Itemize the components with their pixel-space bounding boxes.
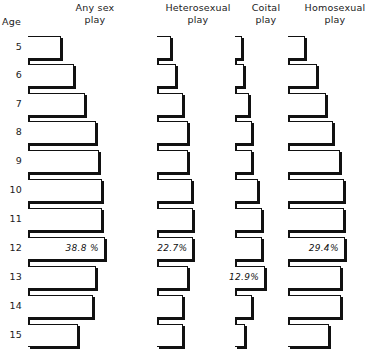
age-tick-label: 12	[4, 242, 22, 253]
bar[interactable]	[28, 295, 93, 318]
bar[interactable]	[235, 237, 262, 260]
age-tick-label: 9	[4, 155, 22, 166]
age-tick-label: 15	[4, 329, 22, 340]
bar[interactable]	[235, 93, 249, 116]
bar[interactable]	[235, 179, 258, 202]
bar[interactable]	[288, 64, 317, 87]
age-tick-label: 7	[4, 98, 22, 109]
chart-canvas: Any sex play Heterosexual play Coital pl…	[0, 0, 379, 362]
bar[interactable]	[288, 93, 326, 116]
age-tick-label: 11	[4, 213, 22, 224]
age-tick-label: 13	[4, 271, 22, 282]
bar[interactable]	[157, 36, 171, 59]
bar[interactable]	[157, 179, 192, 202]
bar[interactable]	[288, 179, 344, 202]
bar[interactable]	[157, 121, 188, 144]
age-tick-label: 14	[4, 300, 22, 311]
bar[interactable]	[235, 36, 242, 59]
column-title-coital-play: Coital play	[240, 2, 292, 25]
bar[interactable]	[288, 36, 305, 59]
bar[interactable]	[28, 208, 102, 231]
age-tick-label: 8	[4, 126, 22, 137]
bar-value-label: 38.8 %	[59, 243, 99, 253]
bar[interactable]	[28, 150, 99, 173]
bar[interactable]	[235, 295, 252, 318]
bar[interactable]	[235, 208, 262, 231]
bar[interactable]	[157, 266, 188, 289]
bar[interactable]	[157, 324, 183, 347]
bar-value-label: 29.4%	[299, 243, 339, 253]
age-axis-caption: Age	[2, 16, 21, 27]
bar[interactable]	[288, 150, 340, 173]
bar[interactable]	[157, 208, 193, 231]
bar[interactable]	[288, 121, 333, 144]
column-title-homosexual-play: Homosexual play	[292, 2, 378, 25]
bar[interactable]	[28, 93, 85, 116]
bar[interactable]	[28, 64, 74, 87]
bar[interactable]	[288, 266, 341, 289]
bar[interactable]	[235, 121, 252, 144]
bar-value-label: 12.9%	[219, 272, 259, 282]
bar[interactable]	[28, 324, 78, 347]
age-tick-label: 5	[4, 41, 22, 52]
column-title-heterosexual-play: Heterosexual play	[150, 2, 246, 25]
bar[interactable]	[288, 208, 344, 231]
bar[interactable]	[235, 324, 245, 347]
bar[interactable]	[235, 150, 252, 173]
bar[interactable]	[157, 150, 188, 173]
bar[interactable]	[28, 266, 96, 289]
bar-value-label: 22.7%	[147, 243, 187, 253]
bar[interactable]	[28, 179, 102, 202]
bar[interactable]	[157, 64, 176, 87]
bar[interactable]	[28, 121, 96, 144]
bar[interactable]	[28, 36, 61, 59]
column-title-any-sex-play: Any sex play	[40, 2, 150, 25]
age-tick-label: 6	[4, 69, 22, 80]
bar[interactable]	[288, 324, 329, 347]
bar[interactable]	[235, 64, 244, 87]
bar[interactable]	[157, 295, 183, 318]
bar[interactable]	[157, 93, 183, 116]
bar[interactable]	[288, 295, 341, 318]
age-tick-label: 10	[4, 184, 22, 195]
